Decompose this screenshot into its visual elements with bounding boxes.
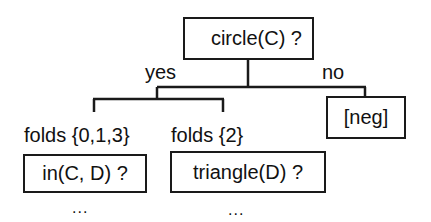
ellipsis-left: ... — [72, 200, 88, 216]
triangle-node: triangle(D) ? — [170, 151, 326, 193]
leaf-neg-node: [neg] — [326, 96, 406, 139]
in-node-label: in(C, D) ? — [42, 162, 128, 185]
fold-label-left: folds {0,1,3} — [24, 125, 130, 145]
root-node-label: circle(C) ? — [211, 27, 302, 50]
fold-label-right: folds {2} — [171, 125, 243, 145]
ellipsis-right: ... — [228, 202, 244, 218]
branch-label-no: no — [322, 62, 344, 82]
leaf-neg-label: [neg] — [344, 106, 388, 129]
in-node: in(C, D) ? — [23, 154, 147, 193]
branch-label-yes: yes — [145, 62, 176, 82]
triangle-node-label: triangle(D) ? — [193, 161, 303, 184]
root-node: circle(C) ? — [183, 17, 314, 60]
